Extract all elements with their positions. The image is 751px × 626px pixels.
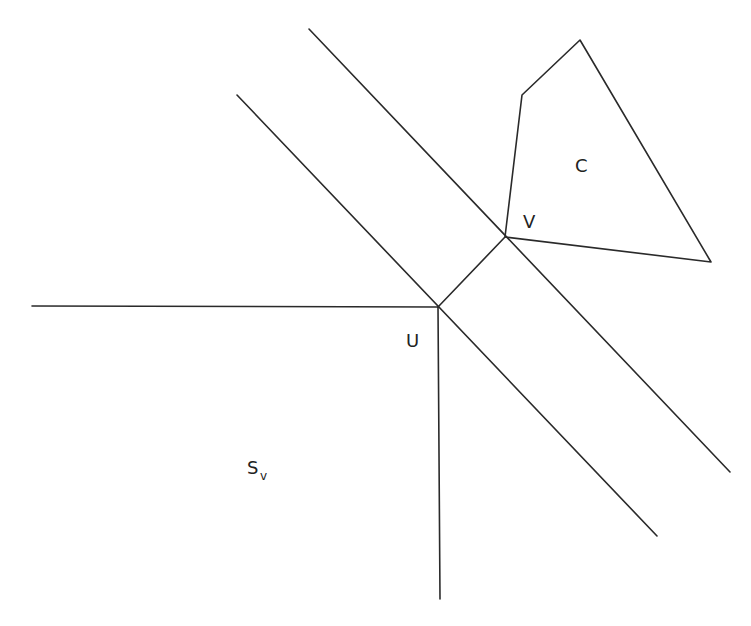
label-u: U [406, 330, 419, 351]
vertical-ray [438, 307, 440, 599]
upper-diagonal-line [309, 29, 730, 472]
lower-diagonal-line [237, 95, 657, 536]
diagram-canvas: U V C S v [0, 0, 751, 626]
label-v: V [523, 211, 536, 232]
label-s: S [247, 457, 258, 478]
label-c: C [575, 155, 588, 176]
label-s-subscript: v [260, 469, 267, 483]
horizontal-ray [32, 306, 438, 307]
polygon-c [505, 40, 711, 262]
segment-u-v [438, 237, 505, 307]
